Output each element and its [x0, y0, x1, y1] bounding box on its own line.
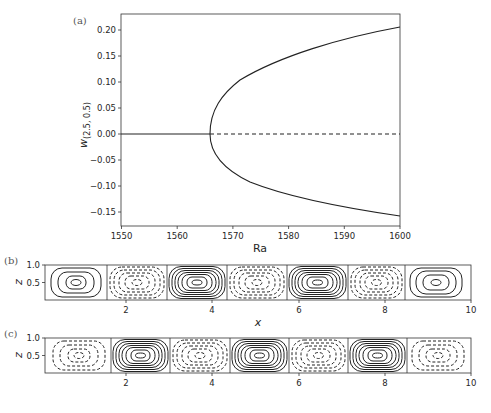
contour-cell-positive [51, 268, 101, 297]
contour-cell-negative [110, 267, 164, 298]
y-label-main: w [77, 139, 90, 148]
contour-cell-positive [169, 267, 225, 299]
x-tick-label: 4 [209, 378, 214, 388]
y-tick-label: −0.10 [90, 181, 116, 191]
z-tick-label: 1.0 [26, 260, 40, 270]
contour-cell-positive [350, 340, 405, 372]
x-tick-label: 8 [382, 378, 387, 388]
z-tick-label: 0.5 [26, 351, 40, 361]
contour-cell-negative [230, 267, 284, 298]
contour-cell-positive [289, 267, 346, 299]
x-axis-label: x [254, 316, 262, 329]
contour-cell-negative [173, 340, 227, 371]
x-tick-label: 10 [466, 378, 477, 388]
x-tick-label: 2 [123, 305, 128, 315]
contour-cell-negative [351, 267, 402, 298]
x-tick-label: 6 [296, 305, 301, 315]
x-axis-label: Ra [253, 242, 267, 255]
x-tick-label: 1560 [166, 231, 188, 241]
contour-cell-positive [410, 268, 462, 297]
lower-branch [210, 134, 400, 216]
panel-c: (c) 1.0 0.5 z [4, 328, 476, 388]
contour-cell-negative [412, 341, 464, 370]
x-tick-label: 4 [209, 305, 214, 315]
y-tick-label: 0.10 [97, 77, 116, 87]
panel-b-axes [45, 265, 471, 300]
panel-c-label: (c) [4, 328, 18, 339]
x-tick-label: 1580 [278, 231, 300, 241]
panel-b-label: (b) [4, 255, 18, 266]
svg-text:w(2.5, 0.5): w(2.5, 0.5) [77, 102, 92, 148]
y-label-sub: (2.5, 0.5) [83, 102, 92, 139]
y-tick-label: −0.05 [90, 155, 116, 165]
panel-a-label: (a) [73, 15, 87, 26]
y-axis-label: w(2.5, 0.5) [77, 102, 92, 148]
panel-a: (a) 0.20 0.15 0.10 0.05 0.00 −0.05 −0.10… [73, 14, 411, 255]
y-tick-label: −0.15 [90, 207, 116, 217]
x-tick-label: 1590 [333, 231, 355, 241]
contour-cell-negative [292, 340, 345, 371]
z-axis-label: z [12, 279, 25, 286]
x-tick-label: 1570 [222, 231, 244, 241]
panel-b: (b) 1.0 0.5 z [4, 255, 476, 329]
x-axis-ticks [122, 226, 401, 229]
y-tick-label: 0.20 [97, 25, 116, 35]
panel-a-axes [121, 14, 400, 226]
contour-cell-positive [113, 340, 168, 372]
contour-cell-positive [232, 340, 287, 372]
x-tick-label: 1600 [389, 231, 411, 241]
contour-cells [53, 340, 464, 372]
y-tick-label: 0.05 [97, 103, 116, 113]
x-tick-label: 1550 [111, 231, 133, 241]
upper-branch [210, 27, 400, 134]
x-tick-label: 6 [296, 378, 301, 388]
z-tick-label: 0.5 [26, 278, 40, 288]
contour-cells [51, 267, 462, 299]
z-tick-label: 1.0 [26, 333, 40, 343]
x-tick-label: 10 [466, 305, 477, 315]
y-axis-ticks [118, 30, 121, 212]
z-axis-label: z [12, 352, 25, 359]
y-tick-label: 0.00 [97, 129, 116, 139]
x-tick-label: 2 [123, 378, 128, 388]
y-tick-label: 0.15 [97, 51, 116, 61]
bifurcation-curves [121, 27, 400, 216]
contour-cell-negative [53, 341, 105, 370]
x-tick-label: 8 [382, 305, 387, 315]
figure: (a) 0.20 0.15 0.10 0.05 0.00 −0.05 −0.10… [0, 0, 491, 413]
